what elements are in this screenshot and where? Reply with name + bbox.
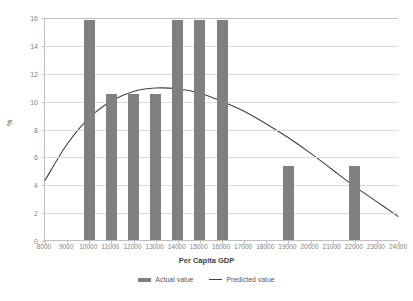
- x-axis-tick-labels: 8000900010000110001200013000140001500016…: [0, 243, 413, 255]
- bar: [194, 20, 205, 240]
- x-axis-title: Per Capita GDP: [0, 256, 413, 265]
- y-tick-label: 10: [30, 98, 38, 105]
- x-tick-label: 23000: [367, 243, 385, 251]
- x-tick-label: 21000: [323, 243, 341, 251]
- legend-item[interactable]: Predicted value: [209, 276, 274, 283]
- y-tick-mark: [42, 46, 45, 47]
- legend-item-label: Predicted value: [226, 276, 274, 283]
- x-tick-label: 20000: [300, 243, 318, 251]
- x-tick-label: 22000: [345, 243, 363, 251]
- bar: [150, 94, 161, 240]
- y-tick-mark: [42, 74, 45, 75]
- bar: [128, 94, 139, 240]
- y-tick-label: 16: [30, 15, 38, 22]
- x-tick-label: 10000: [79, 243, 97, 251]
- y-tick-label: 14: [30, 42, 38, 49]
- legend-item[interactable]: Actual value: [138, 276, 193, 283]
- bar: [172, 20, 183, 240]
- x-tick-label: 18000: [256, 243, 274, 251]
- line-swatch-icon: [209, 279, 222, 280]
- legend-item-label: Actual value: [155, 276, 193, 283]
- x-tick-label: 13000: [146, 243, 164, 251]
- bar: [217, 20, 228, 240]
- y-tick-mark: [42, 18, 45, 19]
- y-tick-label: 12: [30, 70, 38, 77]
- y-tick-mark: [42, 213, 45, 214]
- bar: [84, 20, 95, 240]
- x-tick-label: 11000: [102, 243, 120, 251]
- x-tick-label: 17000: [234, 243, 252, 251]
- bar: [106, 94, 117, 240]
- y-tick-mark: [42, 130, 45, 131]
- chart-container: % 0246810121416 800090001000011000120001…: [0, 0, 413, 301]
- y-tick-label: 4: [34, 182, 38, 189]
- plot-area: [44, 18, 398, 241]
- bar: [283, 166, 294, 240]
- y-tick-label: 8: [34, 126, 38, 133]
- x-tick-label: 16000: [212, 243, 230, 251]
- x-tick-label: 14000: [168, 243, 186, 251]
- y-tick-label: 2: [34, 210, 38, 217]
- y-tick-mark: [42, 185, 45, 186]
- y-tick-mark: [42, 157, 45, 158]
- y-tick-label: 6: [34, 154, 38, 161]
- bar: [349, 166, 360, 240]
- x-tick-label: 9000: [59, 243, 73, 251]
- x-tick-label: 19000: [278, 243, 296, 251]
- y-tick-mark: [42, 102, 45, 103]
- x-tick-label: 8000: [37, 243, 51, 251]
- x-tick-label: 15000: [190, 243, 208, 251]
- chart-legend: Actual valuePredicted value: [0, 276, 413, 283]
- x-tick-label: 12000: [123, 243, 141, 251]
- bar-swatch-icon: [138, 278, 151, 282]
- x-tick-label: 24000: [389, 243, 407, 251]
